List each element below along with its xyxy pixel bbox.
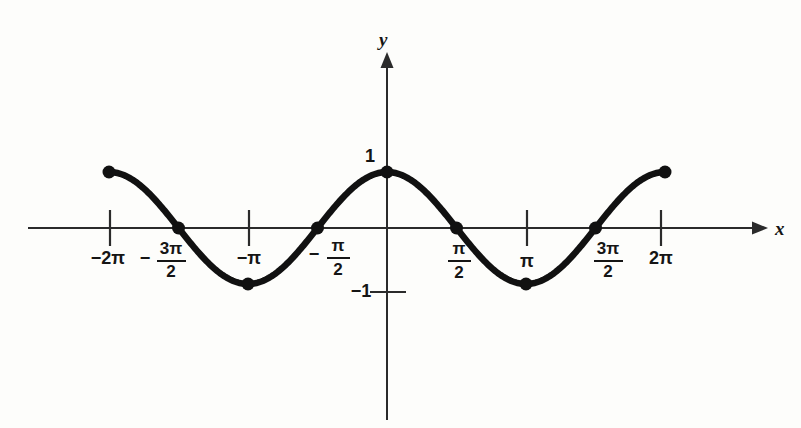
curve-point-dot (172, 222, 185, 235)
y-axis-arrow-icon (381, 52, 394, 68)
tick-label-3pi-over-2: 3π 2 (594, 239, 623, 281)
figure-canvas: x y −2π − 3π 2 −π − (0, 0, 801, 428)
svg-text:−2π: −2π (91, 248, 126, 268)
x-axis-arrow-icon (752, 222, 768, 235)
tick-label-y-one: 1 (365, 146, 375, 166)
neg-3pi-over-2-denominator: 2 (166, 262, 175, 281)
tick-label-neg-3pi-over-2: − 3π 2 (140, 239, 186, 281)
neg-pi-over-2-numerator: π (331, 236, 344, 255)
curve-point-dot (381, 166, 394, 179)
neg-pi-sign: − (237, 248, 248, 268)
y-axis-label: y (377, 29, 388, 50)
2pi-text: 2π (649, 248, 673, 268)
neg-3pi-over-2-numerator: 3π (160, 239, 182, 258)
curve-point-dot (520, 278, 533, 291)
tick-label-2pi: 2π (649, 248, 673, 268)
tick-label-pi: π (520, 251, 534, 271)
3pi-over-2-numerator: 3π (597, 239, 619, 258)
tick-label-neg-pi-over-2: − π 2 (309, 236, 350, 279)
svg-text:−π: −π (237, 248, 262, 268)
curve-point-dot (103, 166, 116, 179)
neg-2pi-sign: − (91, 248, 102, 268)
pi-over-2-denominator: 2 (454, 263, 463, 282)
3pi-over-2-denominator: 2 (603, 262, 612, 281)
neg-2pi-text: 2π (101, 248, 125, 268)
pi-over-2-numerator: π (452, 239, 465, 258)
tick-label-neg-pi: −π (237, 248, 262, 268)
curve-point-dot (311, 222, 324, 235)
neg-pi-over-2-denominator: 2 (333, 260, 342, 279)
neg-pi-over-2-sign: − (309, 244, 320, 264)
pi-text: π (520, 251, 534, 271)
cosine-graph-svg: x y −2π − 3π 2 −π − (0, 0, 801, 428)
tick-label-neg-2pi: −2π (91, 248, 126, 268)
curve-point-dot (242, 278, 255, 291)
curve-point-dot (589, 222, 602, 235)
curve-point-dot (659, 166, 672, 179)
x-axis-label: x (774, 218, 785, 239)
curve-point-dot (450, 222, 463, 235)
neg-pi-text: π (247, 248, 261, 268)
neg-3pi-over-2-sign: − (140, 248, 151, 268)
tick-label-y-neg-one: −1 (351, 281, 372, 301)
